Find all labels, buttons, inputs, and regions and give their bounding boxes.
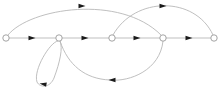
directed-graph-canvas (0, 0, 219, 99)
graph-node-n1 (3, 35, 9, 41)
arrowhead-icon (160, 4, 167, 8)
arrowhead-icon (186, 36, 193, 40)
graph-node-n5 (211, 35, 217, 41)
edge-n3-to-n5 (113, 6, 213, 35)
arrowheads-layer (29, 4, 193, 87)
arrowhead-icon (134, 36, 141, 40)
graph-node-n2 (56, 35, 62, 41)
edge-n4-to-n2 (60, 41, 163, 80)
arrowhead-icon (109, 78, 116, 82)
arrowhead-icon (29, 36, 36, 40)
edges-layer (8, 6, 213, 86)
edge-n1-to-n4 (8, 9, 161, 35)
graph-node-n4 (160, 35, 166, 41)
graph-node-n3 (109, 35, 115, 41)
edge-n2-to-n2 (36, 41, 61, 86)
arrowhead-icon (82, 36, 89, 40)
arrowhead-icon (79, 4, 86, 8)
